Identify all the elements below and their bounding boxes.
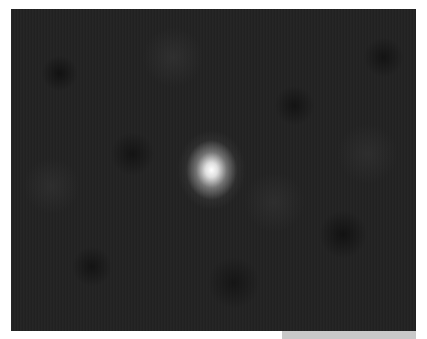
bright-point-source <box>197 154 251 208</box>
dark-noise-field <box>11 9 416 331</box>
footer-gray-bar <box>282 331 416 339</box>
